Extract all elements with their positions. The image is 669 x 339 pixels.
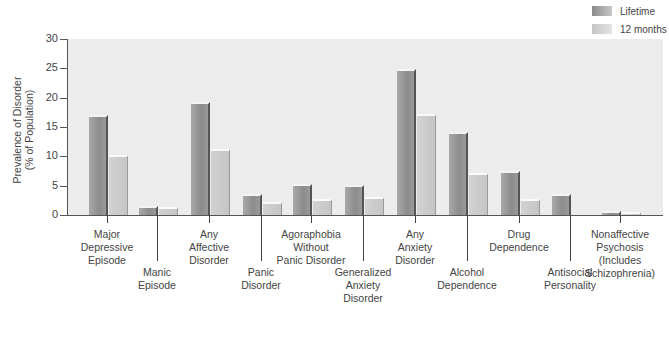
x-tick — [519, 215, 520, 223]
y-tick — [60, 127, 68, 128]
y-tick — [60, 156, 68, 157]
y-tick — [60, 98, 68, 99]
bar-12-months — [159, 207, 178, 215]
x-tick — [107, 215, 108, 223]
x-tick — [311, 215, 312, 223]
legend-label: 12 months — [620, 24, 667, 35]
bar-lifetime — [449, 132, 468, 215]
bar-12-months — [417, 114, 436, 215]
bar-lifetime — [552, 194, 571, 215]
plot-area: 051015202530 — [67, 39, 663, 216]
x-tick — [209, 215, 210, 223]
bar-12-months — [365, 197, 384, 215]
bar-12-months — [521, 199, 540, 215]
x-category-label: Manic Episode — [102, 266, 212, 292]
x-category-label: Major Depressive Episode — [52, 228, 162, 267]
legend-label: Lifetime — [620, 6, 655, 17]
bar-lifetime — [89, 115, 108, 215]
y-tick — [60, 39, 68, 40]
y-tick — [60, 68, 68, 69]
x-category-label: Nonaffective Psychosis (Includes Schizop… — [565, 228, 669, 280]
legend-item-12-months: 12 months — [592, 20, 667, 38]
legend-item-lifetime: Lifetime — [592, 2, 667, 20]
legend-swatch-12-months — [592, 24, 612, 34]
bar-12-months — [109, 155, 128, 215]
legend-swatch-lifetime — [592, 6, 612, 16]
x-category-label: Any Affective Disorder — [154, 228, 264, 267]
x-category-label: Alcohol Dependence — [412, 266, 522, 292]
y-tick — [60, 215, 68, 216]
y-tick-label: 15 — [30, 120, 58, 132]
y-tick — [60, 186, 68, 187]
bar-12-months — [622, 212, 641, 215]
bar-12-months — [211, 149, 230, 215]
x-tick — [620, 215, 621, 223]
y-tick-label: 10 — [30, 149, 58, 161]
bar-lifetime — [139, 206, 158, 215]
y-tick-label: 30 — [30, 32, 58, 44]
bar-12-months — [263, 202, 282, 215]
bar-12-months — [469, 173, 488, 215]
x-category-label: Generalized Anxiety Disorder — [308, 266, 418, 305]
x-tick — [415, 215, 416, 223]
bar-lifetime — [501, 171, 520, 215]
x-category-label: Agoraphobia Without Panic Disorder — [256, 228, 366, 267]
bar-lifetime — [243, 194, 262, 215]
bar-12-months — [313, 199, 332, 215]
legend: Lifetime 12 months — [592, 2, 667, 38]
y-tick-label: 20 — [30, 91, 58, 103]
bar-lifetime — [602, 211, 621, 215]
bar-lifetime — [293, 184, 312, 215]
bar-lifetime — [345, 185, 364, 215]
x-category-label: Any Anxiety Disorder — [360, 228, 470, 267]
y-tick-label: 25 — [30, 61, 58, 73]
bar-lifetime — [191, 102, 210, 215]
bar-lifetime — [397, 69, 416, 215]
y-tick-label: 5 — [30, 179, 58, 191]
y-tick-label: 0 — [30, 208, 58, 220]
x-category-label: Panic Disorder — [206, 266, 316, 292]
x-category-label: Drug Dependence — [464, 228, 574, 254]
